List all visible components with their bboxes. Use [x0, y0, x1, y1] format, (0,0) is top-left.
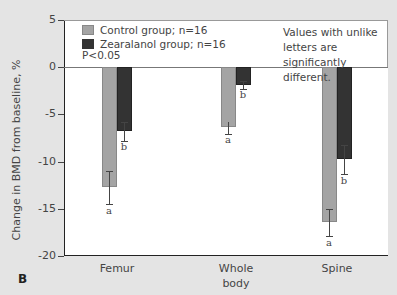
p-value: P<0.05: [82, 49, 121, 61]
ytick-mark: [58, 67, 64, 68]
legend-swatch-icon: [82, 39, 94, 49]
error-cap: [326, 209, 333, 210]
y-axis-title: Change in BMD from baseline, %: [10, 60, 23, 241]
ytick-mark: [58, 162, 64, 163]
error-cap: [121, 122, 128, 123]
ytick-mark: [58, 209, 64, 210]
legend-swatch-icon: [82, 25, 94, 35]
significance-letter: b: [238, 89, 248, 100]
significance-letter: b: [339, 175, 349, 186]
ytick-label: -10: [26, 155, 56, 168]
significance-letter: a: [104, 205, 114, 216]
significance-letter: a: [324, 237, 334, 248]
error-cap: [106, 171, 113, 172]
panel-label: B: [18, 272, 27, 286]
legend-control: Control group; n=16: [82, 24, 207, 36]
error-bar: [243, 81, 244, 89]
ytick-label: 5: [26, 13, 56, 26]
x-label-whole: Whole: [201, 261, 271, 276]
bar-spine-control: [322, 67, 337, 222]
significance-letter: b: [119, 141, 129, 152]
error-bar: [329, 209, 330, 236]
ytick-mark: [58, 114, 64, 115]
bar-femur-control: [102, 67, 117, 187]
error-bar: [344, 145, 345, 174]
legend-control-label: Control group; n=16: [100, 24, 207, 36]
error-bar: [124, 122, 125, 141]
ytick-mark: [58, 20, 64, 21]
ytick-label: 0: [26, 60, 56, 73]
error-bar: [109, 171, 110, 204]
error-cap: [240, 81, 247, 82]
bar-wholebody-control: [221, 67, 236, 127]
ytick-label: -5: [26, 107, 56, 120]
significance-note: Values with unlike letters are significa…: [283, 25, 388, 85]
ytick-label: -15: [26, 202, 56, 215]
significance-letter: a: [223, 134, 233, 145]
x-label-femur: Femur: [82, 261, 152, 276]
error-bar: [228, 122, 229, 134]
x-label-spine: Spine: [302, 261, 372, 276]
ytick-mark: [58, 256, 64, 257]
ytick-label: -20: [26, 249, 56, 262]
error-cap: [341, 145, 348, 146]
x-label-body: body: [201, 276, 271, 291]
